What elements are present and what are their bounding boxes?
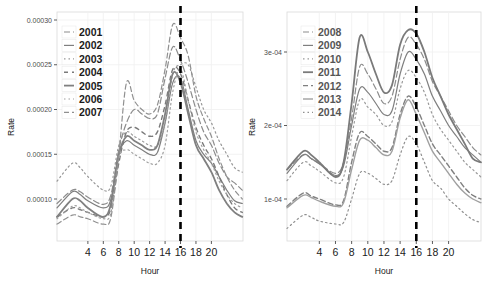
x-tick-label: 18 (190, 246, 202, 258)
legend-label: 2002 (79, 39, 103, 51)
legend-item-2005: 2005 (62, 80, 103, 92)
legend-label: 2012 (318, 80, 342, 92)
x-tick-label: 20 (206, 246, 218, 258)
right-x-axis-title: Hour (375, 266, 394, 276)
right-y-axis-title: Rate (247, 118, 257, 136)
y-tick-label: 0.00020 (27, 106, 52, 113)
x-tick-label: 14 (159, 246, 171, 258)
y-tick-label: 1e-04 (264, 196, 282, 203)
legend-item-2002: 2002 (62, 39, 103, 51)
legend-item-2012: 2012 (301, 80, 342, 92)
legend-item-2009: 2009 (301, 39, 342, 51)
legend-label: 2004 (79, 66, 103, 78)
legend-label: 2003 (79, 53, 103, 65)
y-tick-label: 0.00025 (27, 61, 52, 68)
legend-label: 2001 (79, 26, 103, 38)
right-x-axis: 468101214161820 (316, 241, 454, 258)
x-tick-label: 4 (85, 246, 91, 258)
left-x-axis-title: Hour (141, 266, 160, 276)
right-legend: 2008200920102011201220132014 (301, 26, 342, 118)
legend-label: 2013 (318, 93, 342, 105)
y-tick-label: 0.00030 (27, 17, 52, 24)
x-tick-label: 6 (333, 246, 339, 258)
x-tick-label: 10 (362, 246, 374, 258)
left-legend: 2001200220032004200520062007 (62, 26, 103, 118)
y-tick-label: 0.00015 (27, 151, 52, 158)
y-tick-label: 3e-04 (264, 49, 282, 56)
right-panel: 1e-042e-043e-04 468101214161820 Hour Rat… (247, 6, 481, 276)
x-tick-label: 4 (316, 246, 322, 258)
legend-label: 2011 (318, 66, 341, 78)
x-tick-label: 12 (144, 246, 156, 258)
left-x-axis: 468101214161820 (85, 241, 217, 258)
legend-label: 2010 (318, 53, 342, 65)
legend-label: 2008 (318, 26, 342, 38)
legend-item-2007: 2007 (62, 106, 103, 118)
legend-item-2006: 2006 (62, 93, 103, 105)
chart-canvas: 0.000100.000150.000200.000250.00030 4681… (0, 0, 491, 281)
legend-item-2001: 2001 (62, 26, 103, 38)
x-tick-label: 8 (349, 246, 355, 258)
y-tick-label: 0.00010 (27, 196, 52, 203)
x-tick-label: 18 (427, 246, 439, 258)
legend-label: 2009 (318, 39, 342, 51)
x-tick-label: 20 (443, 246, 455, 258)
legend-item-2010: 2010 (301, 53, 342, 65)
x-tick-label: 8 (116, 246, 122, 258)
right-y-axis: 1e-042e-043e-04 (264, 49, 287, 203)
x-tick-label: 10 (128, 246, 140, 258)
x-tick-label: 16 (410, 246, 422, 258)
left-panel: 0.000100.000150.000200.000250.00030 4681… (6, 6, 243, 276)
legend-label: 2005 (79, 80, 103, 92)
legend-item-2003: 2003 (62, 53, 103, 65)
legend-item-2011: 2011 (301, 66, 341, 78)
left-y-axis-title: Rate (6, 118, 16, 136)
legend-label: 2006 (79, 93, 103, 105)
y-tick-label: 2e-04 (264, 122, 282, 129)
legend-label: 2007 (79, 106, 103, 118)
legend-item-2004: 2004 (62, 66, 103, 78)
legend-item-2013: 2013 (301, 93, 342, 105)
x-tick-label: 14 (394, 246, 406, 258)
x-tick-label: 12 (378, 246, 390, 258)
x-tick-label: 6 (100, 246, 106, 258)
legend-label: 2014 (318, 106, 342, 118)
x-tick-label: 16 (175, 246, 187, 258)
legend-item-2014: 2014 (301, 106, 342, 118)
legend-item-2008: 2008 (301, 26, 342, 38)
left-y-axis: 0.000100.000150.000200.000250.00030 (27, 17, 57, 203)
